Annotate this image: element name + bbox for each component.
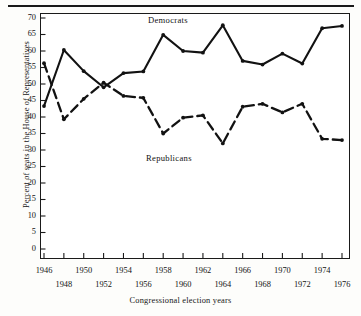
x-tick-label: 1972 <box>285 281 319 289</box>
x-tick-label: 1956 <box>126 281 160 289</box>
x-tick-label: 1958 <box>146 267 180 275</box>
x-axis-title: Congressional election years <box>0 296 361 305</box>
x-tick-label: 1960 <box>166 281 200 289</box>
x-tick-label: 1954 <box>106 267 140 275</box>
series-label-democrats: Democrats <box>148 15 188 25</box>
x-tick-label: 1964 <box>206 281 240 289</box>
chart-figure: Percent of seats in the House of Represe… <box>0 0 361 316</box>
x-tick-label: 1952 <box>87 281 121 289</box>
x-tick-label: 1974 <box>305 267 339 275</box>
x-tick-label: 1948 <box>47 281 81 289</box>
series-label-republicans: Republicans <box>146 153 192 163</box>
x-tick-label: 1966 <box>226 267 260 275</box>
x-tick-label: 1970 <box>265 267 299 275</box>
x-tick-label: 1962 <box>186 267 220 275</box>
x-tick-label: 1976 <box>325 281 359 289</box>
x-tick-label: 1946 <box>27 267 61 275</box>
x-tick-label: 1950 <box>67 267 101 275</box>
x-tick-label: 1968 <box>246 281 280 289</box>
